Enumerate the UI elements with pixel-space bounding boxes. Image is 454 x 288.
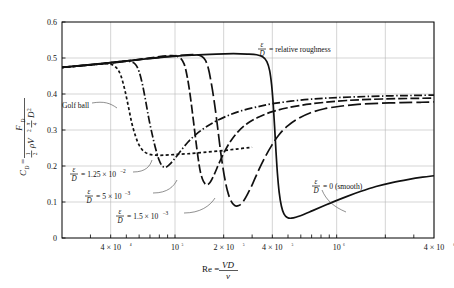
y-tick-label: 0.1 [47,198,57,207]
diameter-symbol: D [85,197,92,205]
y-tick-label: 0 [53,234,57,243]
roughness-1p5e-3-note-text: = 1.5 × 10 [127,212,159,221]
x-tick-label-exponent: ⁶ [343,242,345,248]
diameter-symbol: D [116,217,123,225]
x-axis-title-numerator: VD [222,260,234,270]
y-tick-label: 0.2 [47,162,57,171]
golf-ball-note-text: Golf ball [62,101,89,110]
y-tick-label: 0.5 [47,54,57,63]
diameter-symbol: D [258,50,265,58]
y-tick-label: 0.6 [47,18,57,27]
x-tick-label-base: 2 × 10 [213,243,234,252]
y-axis-cd-subscript: D [24,166,30,171]
relative-roughness-note-text: = relative roughness [269,45,331,54]
y-axis-half-numerator: 1 [25,152,31,155]
epsilon-symbol: ε [315,178,318,186]
diameter-symbol: D [70,175,77,183]
epsilon-symbol: ε [119,208,122,216]
y-axis-half-denominator: 2 [32,152,38,155]
x-tick-label-base: 10 [333,243,341,252]
epsilon-symbol: ε [88,188,91,196]
x-tick-label-base: 10 [171,243,179,252]
roughness-1p25e-2-note-exponent: −2 [120,168,126,174]
drag-coefficient-chart: 4 × 10⁴10⁵2 × 10⁵4 × 10⁵10⁶4 × 10⁶ 00.10… [0,0,454,288]
x-tick-label-exponent: ⁵ [243,242,245,248]
x-tick-label-base: 4 × 10 [100,243,121,252]
y-axis-rho-v: ρV [26,137,36,149]
roughness-1p5e-3-note-exponent: −3 [163,210,169,216]
x-axis-title-denominator: ν [226,271,230,281]
x-tick-label-base: 4 × 10 [424,243,445,252]
y-axis-v-exponent: 2 [26,129,32,132]
y-axis-fd-symbol: F [14,125,24,132]
golf-ball-note: Golf ball [62,101,89,110]
diameter-symbol: D [312,187,319,195]
roughness-5e-3-note-exponent: −3 [124,190,130,196]
epsilon-symbol: ε [73,166,76,174]
chart-canvas: 4 × 10⁴10⁵2 × 10⁵4 × 10⁵10⁶4 × 10⁶ 00.10… [0,0,454,288]
y-axis-pi-numerator: π [25,122,31,125]
smooth-note-text: = 0 (smooth) [323,182,363,191]
epsilon-symbol: ε [261,41,264,49]
x-tick-label-exponent: ⁵ [292,242,294,248]
roughness-1p25e-2-note-text: = 1.25 × 10 [81,170,116,179]
y-axis-pi-denominator: 4 [32,122,38,125]
y-axis-diameter-exponent: 2 [26,108,32,111]
y-axis-equals: = [18,159,28,164]
x-tick-label-base: 4 × 10 [262,243,283,252]
x-tick-label-exponent: ⁵ [181,242,183,248]
y-tick-label: 0.4 [47,90,57,99]
x-tick-label-exponent: ⁴ [130,242,132,248]
y-axis-diameter-symbol: D [26,111,36,119]
y-tick-label: 0.3 [47,126,57,135]
roughness-5e-3-note-text: = 5 × 10 [96,192,122,201]
x-axis-title-prefix: Re = [202,264,219,274]
